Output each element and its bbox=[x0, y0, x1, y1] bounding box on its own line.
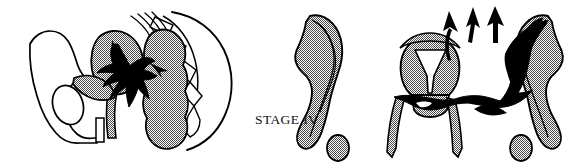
stage-iv-figure: STAGE IV bbox=[0, 0, 577, 165]
pubic-symphysis bbox=[96, 118, 104, 142]
left-ischial-tuberosity bbox=[327, 135, 349, 161]
stage-caption: STAGE IV bbox=[255, 112, 318, 128]
rectum bbox=[142, 30, 188, 149]
anatomical-illustration bbox=[0, 0, 577, 165]
right-ischial-tuberosity bbox=[510, 135, 532, 161]
